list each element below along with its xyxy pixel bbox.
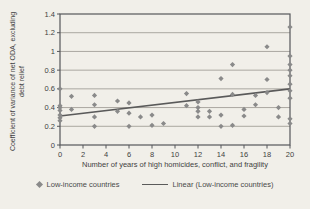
data-point: [287, 116, 292, 121]
y-axis-label: Coefficient of variance of net ODA, excl…: [9, 12, 26, 152]
y-tick-label-0.8: 0.8: [45, 66, 55, 75]
data-point: [230, 123, 235, 128]
x-tick-label-2: 2: [81, 150, 85, 159]
y-tick-label-0.6: 0.6: [45, 84, 55, 93]
data-point: [195, 114, 200, 119]
data-point: [92, 93, 97, 98]
x-tick-label-8: 8: [150, 150, 154, 159]
data-point: [138, 114, 143, 119]
data-point: [149, 112, 154, 117]
data-point: [184, 91, 189, 96]
y-tick-label-0: 0: [51, 141, 55, 150]
data-point: [264, 77, 269, 82]
data-point: [92, 102, 97, 107]
data-point: [115, 98, 120, 103]
y-tick-label-1: 1: [51, 47, 55, 56]
data-point: [126, 124, 131, 129]
data-point: [92, 114, 97, 119]
data-point: [57, 108, 62, 113]
x-tick-label-14: 14: [217, 150, 225, 159]
x-tick-label-12: 12: [194, 150, 202, 159]
diamond-marker-icon: [36, 181, 43, 188]
x-tick-label-4: 4: [104, 150, 108, 159]
data-point: [218, 112, 223, 117]
data-point: [264, 44, 269, 49]
chart-container: 00.20.40.60.811.21.402468101214161820 Co…: [0, 0, 310, 209]
x-tick-label-18: 18: [263, 150, 271, 159]
data-point: [218, 76, 223, 81]
chart-legend: Low-income countries Linear (Low-income …: [0, 180, 310, 189]
data-point: [149, 123, 154, 128]
legend-line-label: Linear (Low-income countries): [173, 180, 274, 189]
data-point: [287, 73, 292, 78]
x-tick-label-16: 16: [240, 150, 248, 159]
legend-scatter-label: Low-income countries: [47, 180, 120, 189]
data-point: [57, 118, 62, 123]
legend-item-scatter: Low-income countries: [37, 180, 120, 189]
data-point: [69, 94, 74, 99]
y-tick-label-0.4: 0.4: [45, 103, 55, 112]
trend-line-icon: [142, 184, 168, 185]
y-tick-label-1.2: 1.2: [45, 28, 55, 37]
data-point: [253, 102, 258, 107]
x-tick-label-10: 10: [171, 150, 179, 159]
legend-item-line: Linear (Low-income countries): [142, 180, 274, 189]
data-point: [287, 82, 292, 87]
data-point: [287, 121, 292, 126]
y-tick-label-0.2: 0.2: [45, 122, 55, 131]
data-point: [92, 124, 97, 129]
data-point: [276, 114, 281, 119]
data-point: [207, 109, 212, 114]
data-point: [230, 62, 235, 67]
x-tick-label-6: 6: [127, 150, 131, 159]
data-point: [287, 25, 292, 30]
data-point: [287, 54, 292, 59]
x-tick-label-0: 0: [58, 150, 62, 159]
data-point: [218, 124, 223, 129]
data-point: [287, 68, 292, 73]
data-point: [241, 113, 246, 118]
data-point: [207, 114, 212, 119]
data-point: [287, 96, 292, 101]
y-tick-label-1.4: 1.4: [45, 10, 55, 19]
data-point: [161, 121, 166, 126]
scatter-plot: 00.20.40.60.811.21.402468101214161820: [0, 0, 310, 175]
data-point: [126, 111, 131, 116]
data-point: [57, 86, 62, 91]
x-axis-label: Number of years of high homicides, confl…: [60, 160, 290, 169]
data-point: [287, 62, 292, 67]
data-point: [126, 100, 131, 105]
data-point: [195, 109, 200, 114]
data-point: [276, 105, 281, 110]
x-tick-label-20: 20: [286, 150, 294, 159]
